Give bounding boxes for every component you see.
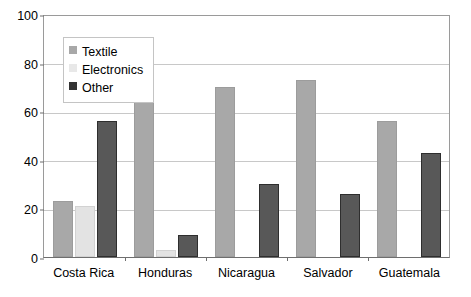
x-tick-mark [125, 257, 126, 261]
bar-slot [340, 16, 360, 257]
bar-slot [156, 16, 176, 257]
legend-label-electronics: Electronics [82, 64, 143, 77]
x-axis-label: Salvador [287, 266, 368, 280]
x-axis-labels: Costa RicaHondurasNicaraguaSalvadorGuate… [43, 266, 450, 280]
bar [53, 201, 73, 257]
bar [421, 153, 441, 257]
x-tick-mark [368, 257, 369, 261]
y-tick-label: 60 [24, 107, 38, 120]
x-axis-label: Costa Rica [43, 266, 124, 280]
chart-legend: Textile Electronics Other [63, 37, 154, 103]
bar [97, 121, 117, 257]
bar [377, 121, 397, 257]
bar-group [368, 16, 449, 257]
bar-slot [399, 16, 419, 257]
x-axis-label: Honduras [124, 266, 205, 280]
bar [156, 250, 176, 257]
bar-group [206, 16, 287, 257]
y-tick-label: 80 [24, 58, 38, 71]
bar [75, 206, 95, 257]
y-tick-mark [40, 259, 44, 260]
bar-group [287, 16, 368, 257]
bar-slot [421, 16, 441, 257]
bar-slot [377, 16, 397, 257]
x-tick-mark [287, 257, 288, 261]
legend-item-other: Other [69, 79, 143, 97]
x-tick-mark [206, 257, 207, 261]
bar-slot [215, 16, 235, 257]
y-tick-label: 40 [24, 156, 38, 169]
bar-slot [178, 16, 198, 257]
legend-swatch-textile [69, 46, 77, 54]
bar-slot [259, 16, 279, 257]
legend-label-textile: Textile [82, 46, 117, 59]
legend-swatch-electronics [69, 64, 77, 72]
bar-chart: 020406080100 Costa RicaHondurasNicaragua… [0, 0, 471, 297]
bar [215, 87, 235, 257]
legend-swatch-other [69, 82, 77, 90]
legend-label-other: Other [82, 82, 113, 95]
bar-slot [296, 16, 316, 257]
y-tick-label: 20 [24, 204, 38, 217]
bar [296, 80, 316, 257]
legend-item-textile: Textile [69, 43, 143, 61]
y-tick-label: 100 [17, 10, 38, 23]
bar [259, 184, 279, 257]
x-axis-label: Guatemala [369, 266, 450, 280]
x-axis-label: Nicaragua [206, 266, 287, 280]
bar [178, 235, 198, 257]
bar [340, 194, 360, 257]
y-tick-label: 0 [31, 253, 38, 266]
bar-slot [237, 16, 257, 257]
legend-item-electronics: Electronics [69, 61, 143, 79]
bar-slot [318, 16, 338, 257]
